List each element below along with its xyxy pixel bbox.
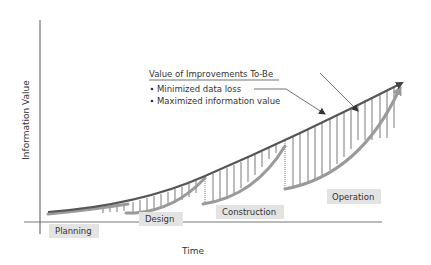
information-value-diagram: Information Value Time: [0, 0, 431, 265]
phase-label-planning: Planning: [49, 224, 99, 238]
phase-label-construction: Construction: [216, 205, 284, 219]
svg-text:Planning: Planning: [55, 226, 92, 236]
callout: Value of Improvements To-Be Minimized da…: [149, 69, 358, 114]
callout-bullet-1: Minimized data loss: [157, 84, 242, 94]
bullet-icon: [151, 88, 154, 91]
operation-curve: [285, 88, 400, 189]
bullet-icon: [151, 100, 154, 103]
y-axis-label: Information Value: [21, 80, 31, 160]
svg-text:Operation: Operation: [332, 192, 374, 202]
construction-curve: [203, 146, 285, 204]
callout-title: Value of Improvements To-Be: [149, 69, 273, 79]
callout-bullet-2: Maximized information value: [157, 96, 280, 106]
leader-line-info-value: [320, 73, 358, 111]
x-axis-label: Time: [181, 246, 204, 256]
svg-text:Design: Design: [145, 214, 174, 224]
design-curve: [126, 178, 205, 213]
planning-curve: [48, 204, 128, 214]
phase-label-operation: Operation: [327, 189, 381, 204]
svg-text:Construction: Construction: [222, 207, 276, 217]
phase-label-design: Design: [139, 212, 183, 226]
